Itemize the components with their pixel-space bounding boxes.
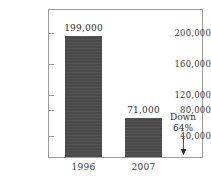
bar-chart: 200,000 160,000 120,000 80,000 40,000 19… [0,0,211,185]
down-callout-line1: Down [163,112,203,123]
bar-value-2007: 71,000 [119,106,168,115]
bar-value-1996: 199,000 [58,24,109,33]
y-axis-tick-200000 [48,33,54,34]
bar-1996 [65,36,102,157]
y-axis-tick-40000 [48,136,54,137]
down-callout: Down 64% [163,112,203,134]
down-arrow-icon [179,134,188,156]
bar-2007 [125,118,162,157]
y-axis-tick-120000 [48,95,54,96]
x-axis-label-2007: 2007 [118,163,169,172]
y-axis-tick-160000 [48,64,54,65]
x-axis-label-1996: 1996 [58,163,109,172]
y-axis-label-200000: 200,000 [167,29,211,38]
down-callout-line2: 64% [163,123,203,134]
y-axis-label-120000: 120,000 [167,91,211,100]
y-axis-label-160000: 160,000 [167,60,211,69]
y-axis-tick-80000 [48,110,54,111]
